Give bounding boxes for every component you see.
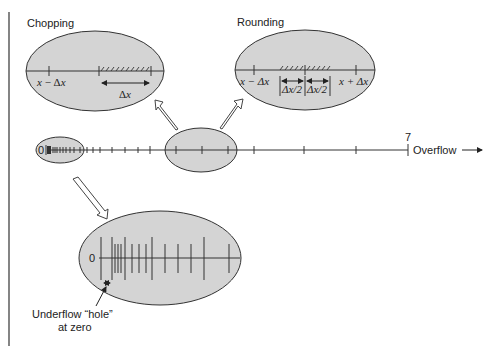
chopping-interval-label: Δx: [119, 88, 131, 100]
callout-arrow-rounding: [220, 99, 243, 129]
underflow-annotation-line1: Underflow “hole”: [32, 308, 113, 320]
rounding-inset: Rounding x − Δx Δx/2 Δx/2 x + Δx: [235, 16, 375, 110]
underflow-zero-label: 0: [89, 252, 95, 264]
chopping-title: Chopping: [27, 17, 74, 29]
rounding-left-label: x − Δx: [239, 75, 269, 87]
rounding-half-right: Δx/2: [306, 83, 327, 95]
callout-arrow-underflow: [73, 177, 108, 219]
chopping-inset: Chopping x − Δx Δx: [26, 17, 164, 111]
max-value-label: 7: [405, 131, 411, 143]
number-line: 0 7: [36, 128, 482, 172]
underflow-inset: 0 Underflow “hole” at zero: [32, 211, 241, 333]
rounding-right-label: x + Δx: [338, 75, 368, 87]
zero-label: 0: [38, 144, 44, 156]
chopping-left-label: x − Δx: [36, 76, 66, 88]
floating-point-number-line-diagram: Chopping x − Δx Δx Rounding: [0, 0, 499, 346]
callout-arrow-chopping: [155, 100, 178, 130]
rounding-title: Rounding: [237, 16, 284, 28]
overflow-label: Overflow: [413, 144, 456, 156]
underflow-annotation-line2: at zero: [58, 321, 92, 333]
rounding-half-left: Δx/2: [281, 83, 302, 95]
